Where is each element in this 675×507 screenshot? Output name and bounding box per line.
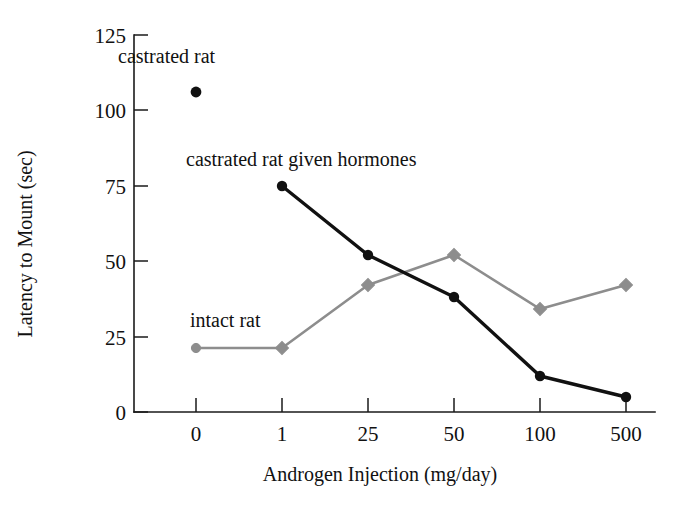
x-tick-labels: 0 1 25 50 100 500 [191, 422, 642, 446]
castrated-hormones-point-100 [535, 371, 545, 381]
y-tick-label-25: 25 [105, 326, 126, 350]
x-axis-title: Androgen Injection (mg/day) [263, 463, 497, 486]
intact-rat-point-500 [619, 278, 632, 291]
y-tick-labels: 125 100 75 50 25 0 [95, 24, 127, 425]
intact-rat-point-0 [191, 343, 200, 352]
x-tick-label-0: 0 [191, 422, 202, 446]
y-tick-label-100: 100 [95, 99, 127, 123]
intact-rat-point-50 [447, 248, 460, 261]
annotation-intact-rat: intact rat [190, 309, 261, 331]
series-castrated-rat-given-hormones [277, 181, 631, 402]
x-tick-label-500: 500 [610, 422, 642, 446]
y-axis-title: Latency to Mount (sec) [14, 150, 37, 337]
castrated-hormones-markers [277, 181, 631, 402]
intact-rat-point-100 [533, 302, 546, 315]
y-tick-label-75: 75 [105, 175, 126, 199]
x-tick-label-1: 1 [277, 422, 288, 446]
axis-group [134, 35, 655, 412]
intact-rat-line [196, 255, 626, 348]
castrated-hormones-point-1 [277, 181, 287, 191]
y-tick-label-50: 50 [105, 250, 126, 274]
x-tick-label-50: 50 [444, 422, 465, 446]
castrated-hormones-point-25 [363, 250, 373, 260]
castrated-hormones-point-500 [621, 392, 631, 402]
y-tick-label-0: 0 [116, 401, 127, 425]
series-castrated-rat [191, 87, 202, 98]
x-tick-label-100: 100 [524, 422, 556, 446]
castrated-hormones-point-50 [449, 292, 459, 302]
series-intact-rat [191, 248, 632, 354]
x-tick-label-25: 25 [358, 422, 379, 446]
castrated-hormones-line [282, 186, 626, 397]
annotation-castrated-rat-given-hormones: castrated rat given hormones [186, 148, 417, 171]
chart-page: 125 100 75 50 25 0 0 1 25 50 100 500 And… [0, 0, 675, 507]
castrated-rat-point-0 [191, 87, 202, 98]
annotation-castrated-rat: castrated rat [118, 45, 216, 67]
line-chart: 125 100 75 50 25 0 0 1 25 50 100 500 And… [0, 0, 675, 507]
